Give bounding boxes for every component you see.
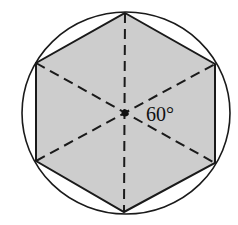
center-point [122, 110, 129, 117]
hexagon-in-circle-diagram: 60° [0, 0, 238, 225]
angle-label: 60° [146, 103, 174, 125]
diagram-canvas: 60° [0, 0, 238, 225]
